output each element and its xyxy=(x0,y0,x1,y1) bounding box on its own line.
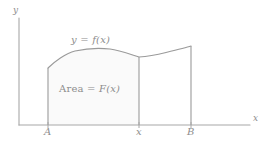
unshaded-area-region xyxy=(139,46,191,125)
y-axis-label: y xyxy=(13,6,18,15)
curve-equation-label: y = f(x) xyxy=(71,35,110,45)
x-axis-label: x xyxy=(253,114,258,123)
area-annotation-function: F(x) xyxy=(99,83,120,94)
x-tick-label-a: A xyxy=(44,127,51,137)
area-function-diagram: y x y = f(x) Area = F(x) A x B xyxy=(0,0,273,145)
diagram-canvas xyxy=(0,0,273,145)
x-tick-label-b: B xyxy=(187,127,194,137)
area-annotation-prefix: Area = xyxy=(59,83,99,94)
area-annotation-label: Area = F(x) xyxy=(59,84,120,94)
x-tick-label-x: x xyxy=(136,127,142,137)
